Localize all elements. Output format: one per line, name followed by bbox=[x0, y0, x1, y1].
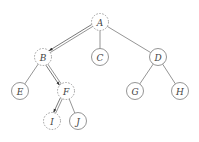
node-label: G bbox=[131, 87, 138, 97]
node-label: I bbox=[49, 117, 54, 127]
node-j: J bbox=[70, 113, 87, 130]
node-label: D bbox=[153, 53, 161, 63]
node-e: E bbox=[12, 83, 29, 100]
tree-edges bbox=[25, 26, 176, 113]
tree-diagram: ABCDEFGHIJ bbox=[0, 0, 199, 142]
node-a: A bbox=[92, 14, 109, 31]
node-d: D bbox=[150, 49, 167, 66]
edge-b-f bbox=[48, 64, 61, 84]
node-f: F bbox=[58, 83, 75, 100]
edge-b-e bbox=[25, 64, 38, 84]
tree-nodes: ABCDEFGHIJ bbox=[12, 14, 189, 130]
node-label: H bbox=[175, 87, 184, 97]
edge-a-d bbox=[107, 26, 150, 52]
node-g: G bbox=[127, 83, 144, 100]
node-label: B bbox=[39, 53, 47, 63]
traversal-arrow-b-f bbox=[46, 65, 59, 85]
traversal-arrow-a-b bbox=[49, 25, 92, 51]
node-label: C bbox=[97, 53, 104, 63]
node-c: C bbox=[92, 49, 109, 66]
node-h: H bbox=[172, 83, 189, 100]
edge-d-g bbox=[140, 64, 153, 84]
edge-f-j bbox=[69, 99, 75, 113]
edge-a-b bbox=[50, 26, 93, 52]
node-label: E bbox=[16, 87, 24, 97]
edge-d-h bbox=[163, 64, 176, 84]
node-b: B bbox=[35, 49, 52, 66]
node-i: I bbox=[44, 113, 61, 130]
node-label: F bbox=[62, 87, 70, 97]
node-label: A bbox=[96, 18, 104, 28]
